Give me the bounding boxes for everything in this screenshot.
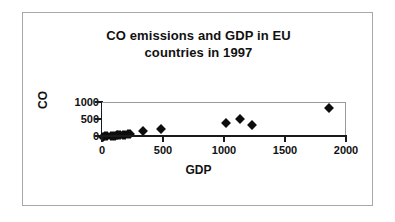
x-axis-tick	[223, 136, 225, 142]
plot-frame	[102, 102, 346, 136]
x-axis-tick-label: 2000	[334, 144, 358, 156]
y-axis-tick	[95, 118, 102, 120]
x-axis-title: GDP	[23, 163, 374, 177]
data-point	[236, 114, 246, 124]
plot-area	[102, 103, 345, 135]
y-axis-tick	[95, 101, 102, 103]
data-point	[324, 103, 334, 113]
data-point	[247, 120, 257, 130]
x-axis-tick	[284, 136, 286, 142]
x-axis-tick-label: 0	[99, 144, 105, 156]
x-axis-tick-label: 1000	[212, 144, 236, 156]
x-axis-tick-label: 1500	[273, 144, 297, 156]
x-axis-tick-label: 500	[154, 144, 172, 156]
x-axis-tick	[101, 136, 103, 142]
data-point	[221, 118, 231, 128]
y-axis-tick-labels: 05001000	[47, 13, 99, 222]
data-point	[156, 124, 166, 134]
x-axis-tick	[345, 136, 347, 142]
chart-container: CO emissions and GDP in EU countries in …	[22, 12, 373, 206]
x-axis-tick	[162, 136, 164, 142]
